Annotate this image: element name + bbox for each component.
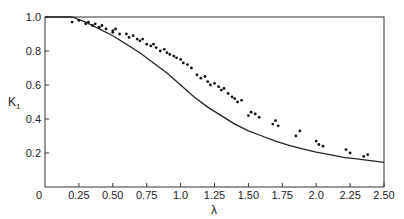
theory-curve xyxy=(45,17,384,162)
data-point xyxy=(98,26,101,29)
data-point xyxy=(322,145,325,148)
data-point xyxy=(217,85,220,88)
data-point xyxy=(182,62,185,65)
y-axis-label: K1 xyxy=(8,95,21,111)
data-point xyxy=(111,31,114,34)
data-point xyxy=(236,101,239,104)
data-point xyxy=(118,33,121,36)
data-point xyxy=(166,51,169,54)
data-point xyxy=(136,38,139,41)
x-tick-label: 1.0 xyxy=(173,189,188,201)
y-tick-label: 0.4 xyxy=(26,113,41,125)
data-point xyxy=(152,43,155,46)
data-point xyxy=(204,75,207,78)
chart: 0.250.500.751.01.251.501.752.02.252.500.… xyxy=(0,0,404,219)
x-tick-label: 2.25 xyxy=(339,189,360,201)
data-point xyxy=(132,34,135,37)
x-tick-label: 1.25 xyxy=(204,189,225,201)
data-point xyxy=(94,22,97,25)
data-point xyxy=(258,116,261,119)
data-point xyxy=(362,155,365,158)
x-tick-label: 2.50 xyxy=(373,189,394,201)
data-point xyxy=(125,33,128,36)
data-point xyxy=(315,140,318,143)
data-point xyxy=(250,111,253,114)
data-point xyxy=(349,152,352,155)
data-point xyxy=(186,63,189,66)
data-point xyxy=(141,38,144,41)
data-point xyxy=(231,96,234,99)
data-point xyxy=(196,73,199,76)
data-point xyxy=(179,58,182,61)
data-point xyxy=(149,45,152,48)
x-axis-label: λ xyxy=(211,203,217,217)
data-point xyxy=(295,135,298,138)
x-tick-label: 0.25 xyxy=(68,189,89,201)
data-point xyxy=(114,28,117,31)
data-point xyxy=(139,39,142,42)
data-point xyxy=(247,114,250,117)
data-point xyxy=(172,55,175,58)
data-point xyxy=(277,124,280,127)
data-point xyxy=(345,148,348,151)
series-line xyxy=(45,17,384,162)
data-point xyxy=(101,24,104,27)
data-point xyxy=(78,19,81,22)
data-point xyxy=(87,21,90,24)
x-tick-label: 0.75 xyxy=(136,189,157,201)
y-tick-label: 0.6 xyxy=(26,79,41,91)
plot-frame xyxy=(45,17,384,187)
data-point xyxy=(366,153,369,156)
data-point xyxy=(159,50,162,53)
data-point xyxy=(274,119,277,122)
data-point xyxy=(200,77,203,80)
data-point xyxy=(91,24,94,27)
x-tick-label: 1.75 xyxy=(272,189,293,201)
y-tick-label: 1.0 xyxy=(26,11,41,23)
x-tick-label: 2.0 xyxy=(309,189,324,201)
data-point xyxy=(190,67,193,70)
data-point xyxy=(175,56,178,59)
y-tick-label: 0.2 xyxy=(26,147,41,159)
data-point xyxy=(240,99,243,102)
axes xyxy=(45,17,384,187)
data-point xyxy=(227,92,230,95)
x-tick-label: 0.50 xyxy=(102,189,123,201)
data-point xyxy=(318,143,321,146)
data-point xyxy=(168,53,171,56)
data-point xyxy=(163,48,166,51)
data-point xyxy=(299,130,302,133)
data-point xyxy=(254,113,257,116)
data-point xyxy=(209,84,212,87)
data-point xyxy=(84,22,87,25)
data-point xyxy=(220,89,223,92)
data-point xyxy=(155,46,158,49)
data-point xyxy=(105,28,108,31)
data-point xyxy=(223,87,226,90)
data-point xyxy=(233,97,236,100)
series-points xyxy=(71,19,369,158)
data-point xyxy=(213,82,216,85)
data-point xyxy=(128,36,131,39)
data-point xyxy=(206,80,209,83)
data-point xyxy=(271,123,274,126)
data-point xyxy=(145,43,148,46)
x-origin-label: 0 xyxy=(36,189,42,201)
x-tick-label: 1.50 xyxy=(238,189,259,201)
ticks: 0.250.500.751.01.251.501.752.02.252.500.… xyxy=(26,11,395,201)
data-point xyxy=(71,21,74,24)
y-tick-label: 0.8 xyxy=(26,45,41,57)
